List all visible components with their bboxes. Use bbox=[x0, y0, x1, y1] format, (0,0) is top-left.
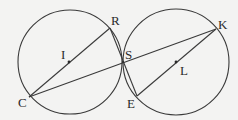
label-I: I bbox=[61, 48, 65, 61]
label-R: R bbox=[111, 14, 120, 27]
label-E: E bbox=[127, 97, 135, 110]
point-L-dot bbox=[175, 61, 178, 64]
point-I-dot bbox=[68, 61, 71, 64]
label-L: L bbox=[180, 64, 188, 77]
label-S: S bbox=[125, 48, 132, 61]
two-tangent-circles-diagram: R I S C E K L bbox=[0, 0, 238, 120]
point-S-dot bbox=[122, 61, 124, 63]
label-K: K bbox=[218, 18, 227, 31]
label-C: C bbox=[18, 96, 27, 109]
